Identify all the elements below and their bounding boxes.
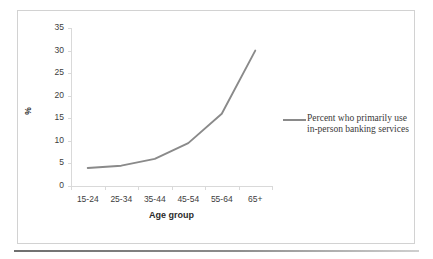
horizontal-rule	[14, 250, 419, 252]
legend-color-swatch	[283, 119, 306, 121]
chart-container: 05101520253035 15-2425-3435-4445-5455-64…	[17, 10, 415, 244]
legend-entry-label: Percent who primarily use in-person bank…	[307, 113, 409, 135]
legend-label-line-1: Percent who primarily use	[307, 113, 409, 124]
series-polyline	[88, 51, 256, 168]
plot-area: 05101520253035 15-2425-3435-4445-5455-64…	[18, 11, 416, 245]
legend-label-line-2: in-person banking services	[307, 124, 409, 135]
legend: Percent who primarily use in-person bank…	[283, 113, 415, 135]
